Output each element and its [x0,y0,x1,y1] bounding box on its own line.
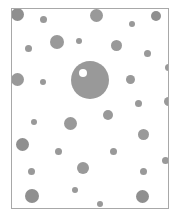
particle [162,157,169,164]
particle [129,21,135,27]
figure-root [0,0,181,221]
particle [77,162,89,174]
particle [111,40,122,51]
particle [136,190,149,203]
particle [25,189,39,203]
particle [72,187,78,193]
particle [11,73,24,86]
particle [135,100,142,107]
particle [110,148,117,155]
particle [40,79,46,85]
particle [16,138,29,151]
particle [103,110,113,120]
particle [126,75,135,84]
particle [97,201,103,207]
particle [40,16,47,23]
particle [90,9,103,22]
particle [138,129,149,140]
particle [50,35,64,49]
particle [31,119,37,125]
particle [28,168,35,175]
particle [144,50,151,57]
particle [64,117,77,130]
particle [76,38,82,44]
particle [25,45,32,52]
particle [140,168,147,175]
plot-frame [11,8,169,209]
vacuole-marker [79,69,87,77]
particle [55,148,62,155]
particle [164,97,170,106]
particle [151,11,161,21]
particle [71,61,109,99]
particle [11,8,24,21]
particle [165,64,170,71]
